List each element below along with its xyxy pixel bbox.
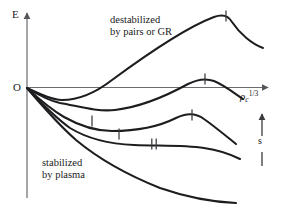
- x-axis-label: ρc1/3: [240, 90, 258, 105]
- curve-curve-2: [27, 80, 243, 111]
- x-axis-label-superscript: 1/3: [249, 89, 259, 98]
- curve-curve-3: [27, 88, 236, 144]
- destabilized-annotation: destabilized by pairs or GR: [110, 14, 172, 38]
- y-axis-label: E: [12, 8, 19, 20]
- destabilized-annotation-line1: destabilized: [110, 14, 160, 25]
- origin-label: O: [13, 81, 21, 93]
- stabilized-annotation-line2: by plasma: [42, 169, 85, 180]
- energy-vs-density-figure: E O destabilized by pairs or GR stabiliz…: [0, 0, 286, 208]
- stabilized-annotation-line1: stabilized: [42, 157, 82, 168]
- destabilized-annotation-line2: by pairs or GR: [110, 26, 172, 37]
- entropy-arrow-label: s: [258, 135, 262, 146]
- stabilized-annotation: stabilized by plasma: [42, 157, 85, 181]
